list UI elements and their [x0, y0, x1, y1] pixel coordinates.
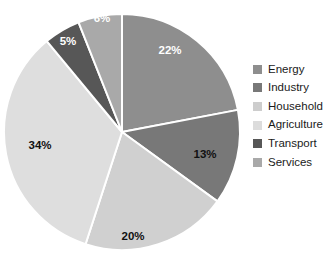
- legend-color-swatch: [253, 83, 262, 92]
- legend-item[interactable]: Household: [253, 97, 330, 116]
- legend-item[interactable]: Industry: [253, 79, 330, 98]
- legend-item[interactable]: Services: [253, 153, 330, 172]
- legend-item-label: Transport: [268, 138, 317, 150]
- legend-color-swatch: [253, 158, 262, 167]
- pie-slice-value-label: 34%: [28, 139, 51, 151]
- pie-slice-value-label: 5%: [60, 35, 77, 47]
- legend-color-swatch: [253, 121, 262, 130]
- legend-item-label: Agriculture: [268, 119, 323, 131]
- legend-item-label: Energy: [268, 64, 304, 76]
- legend-color-swatch: [253, 102, 262, 111]
- pie-chart-figure: 22%13%20%34%5%6% EnergyIndustryHousehold…: [0, 0, 330, 260]
- legend-item-label: Services: [268, 157, 312, 169]
- legend-color-swatch: [253, 65, 262, 74]
- pie-slice-layer: [4, 14, 240, 250]
- chart-legend: EnergyIndustryHouseholdAgricultureTransp…: [253, 60, 330, 172]
- legend-item-label: Industry: [268, 82, 309, 94]
- legend-item[interactable]: Transport: [253, 134, 330, 153]
- pie-slice-value-label: 20%: [121, 230, 144, 242]
- legend-item[interactable]: Energy: [253, 60, 330, 79]
- legend-color-swatch: [253, 139, 262, 148]
- pie-slice-value-label: 6%: [94, 12, 111, 24]
- legend-item-label: Household: [268, 101, 323, 113]
- legend-item[interactable]: Agriculture: [253, 116, 330, 135]
- pie-slice-value-label: 13%: [193, 148, 216, 160]
- pie-slice-value-label: 22%: [158, 44, 181, 56]
